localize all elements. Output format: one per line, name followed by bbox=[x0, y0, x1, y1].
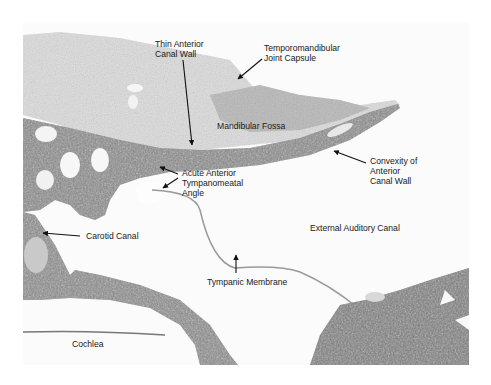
label-line: Joint Capsule bbox=[264, 53, 340, 63]
label-line: Temporomandibular bbox=[264, 43, 340, 53]
label-cochlea: Cochlea bbox=[72, 339, 104, 349]
label-line: Angle bbox=[182, 188, 243, 198]
label-line: Tympanomeatal bbox=[182, 178, 243, 188]
label-tympanic-membrane: Tympanic Membrane bbox=[207, 277, 287, 287]
label-line: Acute Anterior bbox=[182, 168, 243, 178]
label-convexity: Convexity of Anterior Canal Wall bbox=[370, 156, 417, 186]
label-thin-anterior-canal-wall: Thin Anterior Canal Wall bbox=[155, 39, 204, 59]
label-line: Convexity of bbox=[370, 156, 417, 166]
label-carotid-canal: Carotid Canal bbox=[86, 231, 139, 241]
label-line: Canal Wall bbox=[155, 49, 204, 59]
histology-figure bbox=[0, 0, 491, 385]
label-line: Thin Anterior bbox=[155, 39, 204, 49]
label-external-auditory-canal: External Auditory Canal bbox=[310, 223, 400, 233]
label-line: Anterior bbox=[370, 166, 417, 176]
label-line: Canal Wall bbox=[370, 176, 417, 186]
label-tmj-capsule: Temporomandibular Joint Capsule bbox=[264, 43, 340, 63]
label-mandibular-fossa: Mandibular Fossa bbox=[217, 121, 285, 131]
label-acute-anterior-tympanomeatal-angle: Acute Anterior Tympanomeatal Angle bbox=[182, 168, 243, 198]
